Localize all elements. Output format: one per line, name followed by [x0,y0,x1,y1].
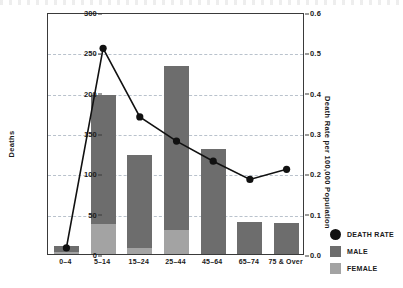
death-rate-marker [136,113,143,120]
tick-mark [305,255,309,256]
x-axis-tick-label: 45–64 [202,258,222,265]
legend-item: DEATH RATE [330,226,394,242]
tick-mark [98,215,102,216]
death-rate-line [66,48,286,248]
x-axis-tick-label: 15–24 [129,258,149,265]
tick-mark [305,134,309,135]
tick-mark [98,53,102,54]
chart-figure: Deaths Death Rate per 100,000 Population… [0,0,403,288]
tick-mark [305,94,309,95]
tick-mark [98,174,102,175]
tick-mark [98,94,102,95]
legend-circle-icon [330,229,341,240]
legend-swatch-icon [330,263,341,274]
y-axis-left-tick-label: 300 [57,9,97,18]
y-axis-left-tick-label: 250 [57,49,97,58]
legend-item-label: DEATH RATE [347,231,394,238]
y-axis-left-title: Deaths [7,131,16,158]
y-axis-right-tick-label: 0.3 [310,130,350,139]
x-axis-tick-label: 65–74 [239,258,259,265]
death-rate-marker [246,176,253,183]
y-axis-right-tick-label: 0.4 [310,89,350,98]
tick-mark [305,174,309,175]
tick-mark [305,13,309,14]
y-axis-left-tick-label: 100 [57,170,97,179]
x-axis-tick-label: 75 & Over [268,258,303,265]
y-axis-right-title: Death Rate per 100,000 Population [323,96,332,229]
legend-item: MALE [330,243,394,259]
tick-mark [98,255,102,256]
legend-swatch-icon [330,246,341,257]
death-rate-marker [283,166,290,173]
death-rate-marker [210,158,217,165]
y-axis-right-tick-label: 0.6 [310,9,350,18]
death-rate-marker [173,138,180,145]
y-axis-left-tick-label: 200 [57,89,97,98]
legend-item-label: FEMALE [347,265,378,272]
tick-mark [305,215,309,216]
scan-artifact-strip [0,0,403,5]
legend-item-label: MALE [347,248,368,255]
tick-mark [98,134,102,135]
death-rate-marker [100,45,107,52]
x-axis-tick-label: 25–44 [165,258,185,265]
tick-mark [305,53,309,54]
chart-legend: DEATH RATEMALEFEMALE [330,226,394,277]
x-axis-tick-label: 0–4 [59,258,71,265]
y-axis-left-tick-label: 50 [57,210,97,219]
tick-mark [98,13,102,14]
x-axis-tick-label: 5–14 [94,258,110,265]
y-axis-right-tick-label: 0.2 [310,170,350,179]
y-axis-right-tick-label: 0.5 [310,49,350,58]
x-axis-labels: 0–45–1415–2425–4445–6465–7475 & Over [47,258,304,272]
legend-item: FEMALE [330,260,394,276]
y-axis-left-tick-label: 150 [57,130,97,139]
y-axis-right-tick-label: 0.1 [310,210,350,219]
